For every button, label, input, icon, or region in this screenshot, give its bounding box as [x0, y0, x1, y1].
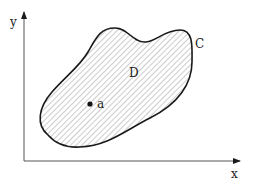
x-axis-label: x	[231, 167, 238, 181]
diagram-canvas: y x C D a	[0, 0, 258, 184]
point-a-dot	[87, 101, 92, 106]
point-label: a	[97, 97, 104, 111]
region-label: D	[129, 66, 139, 80]
curve-label: C	[195, 37, 204, 51]
y-axis-label: y	[9, 15, 17, 29]
region-d-curve-c	[40, 28, 192, 147]
